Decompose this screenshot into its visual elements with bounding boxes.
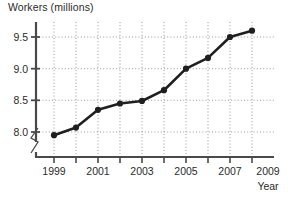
data-point-2000 [73, 124, 79, 130]
vertical-gridlines [54, 22, 252, 156]
x-tick-label-2005: 2005 [174, 165, 198, 177]
y-tick-label-9-0: 9.0 [13, 63, 28, 75]
y-tick-label-9-5: 9.5 [13, 31, 28, 43]
data-point-2002 [117, 100, 123, 106]
data-point-2004 [161, 87, 167, 93]
x-axis-caption: Year [257, 180, 279, 192]
data-point-2008 [249, 28, 255, 34]
data-point-2006 [205, 55, 211, 61]
data-point-2005 [183, 66, 189, 72]
data-point-2003 [139, 98, 145, 104]
data-point-2001 [95, 107, 101, 113]
x-tick-label-2009: 2009 [256, 165, 280, 177]
x-tick-label-1999: 1999 [42, 165, 66, 177]
horizontal-gridlines [36, 37, 274, 132]
data-point-2007 [227, 34, 233, 40]
x-tick-label-2003: 2003 [130, 165, 154, 177]
data-series-line [54, 31, 252, 136]
y-tick-label-8-0: 8.0 [13, 126, 28, 138]
x-tick-label-2007: 2007 [218, 165, 242, 177]
y-tick-label-8-5: 8.5 [13, 94, 28, 106]
chart-plot-area: 8.0 8.5 9.0 9.5 1999 2001 2003 2005 2007… [0, 0, 288, 200]
line-chart: Workers (millions) [0, 0, 288, 200]
data-point-1999 [51, 132, 57, 138]
x-tick-label-2001: 2001 [86, 165, 110, 177]
